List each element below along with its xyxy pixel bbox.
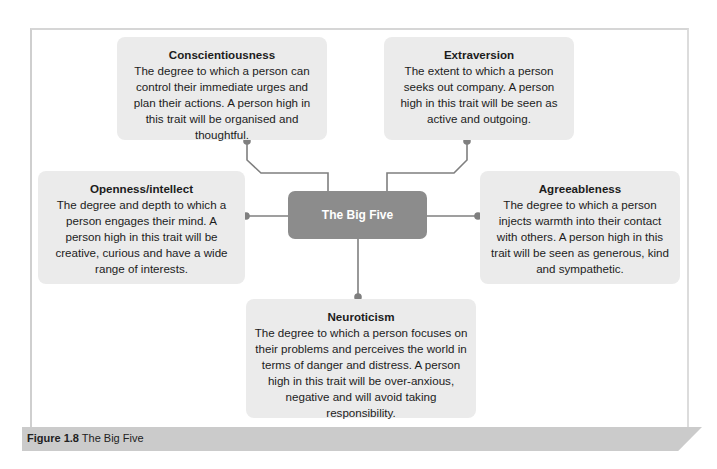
trait-description: The degree to which a person can control…: [117, 63, 327, 143]
trait-box-agreeableness: Agreeableness The degree to which a pers…: [480, 171, 680, 284]
trait-description: The degree to which a person focuses on …: [246, 325, 476, 421]
trait-box-openness: Openness/intellect The degree and depth …: [38, 171, 245, 284]
trait-description: The extent to which a person seeks out c…: [384, 63, 574, 127]
trait-title: Agreeableness: [480, 181, 680, 197]
trait-description: The degree and depth to which a person e…: [38, 197, 245, 277]
trait-title: Extraversion: [384, 47, 574, 63]
trait-title: Neuroticism: [246, 309, 476, 325]
trait-title: Openness/intellect: [38, 181, 245, 197]
trait-description: The degree to which a person injects war…: [480, 197, 680, 277]
trait-title: Conscientiousness: [117, 47, 327, 63]
figure-caption: Figure 1.8 The Big Five: [27, 432, 144, 444]
trait-box-extraversion: Extraversion The extent to which a perso…: [384, 37, 574, 140]
trait-box-neuroticism: Neuroticism The degree to which a person…: [246, 299, 476, 418]
center-node: The Big Five: [288, 191, 427, 239]
trait-box-conscientiousness: Conscientiousness The degree to which a …: [117, 37, 327, 140]
caption-label: Figure 1.8: [27, 432, 79, 444]
center-label: The Big Five: [322, 208, 393, 222]
caption-text: The Big Five: [82, 432, 144, 444]
